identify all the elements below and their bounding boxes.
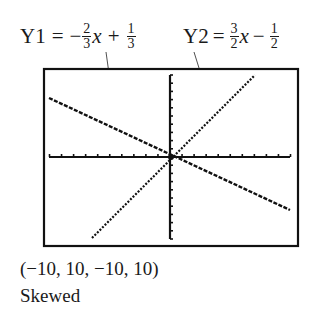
window-settings: (−10, 10, −10, 10) [20, 259, 159, 278]
intersection-point [168, 154, 174, 160]
caption-note: Skewed [20, 286, 80, 305]
